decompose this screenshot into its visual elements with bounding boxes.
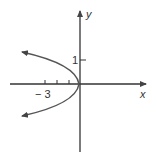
- parabola-graph: − 3 1 x y: [0, 0, 157, 156]
- x-axis-label: x: [139, 88, 146, 100]
- y-tick-label: 1: [72, 54, 78, 66]
- y-axis-label: y: [85, 8, 93, 20]
- parabola-curve: [22, 52, 79, 84]
- x-tick-label: − 3: [35, 88, 51, 100]
